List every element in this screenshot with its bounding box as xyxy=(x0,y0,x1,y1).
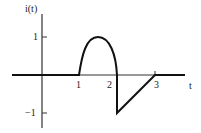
x-axis-label: t xyxy=(189,80,192,91)
x-tick-label-2: 2 xyxy=(107,79,112,90)
y-tick-label-1: 1 xyxy=(33,31,38,42)
y-tick-label-minus1: −1 xyxy=(25,107,36,118)
chart: i(t) t 1 2 3 1 −1 xyxy=(0,0,201,133)
y-axis-label: i(t) xyxy=(25,3,37,15)
x-tick-label-1: 1 xyxy=(76,79,81,90)
x-tick-label-3: 3 xyxy=(154,79,159,90)
